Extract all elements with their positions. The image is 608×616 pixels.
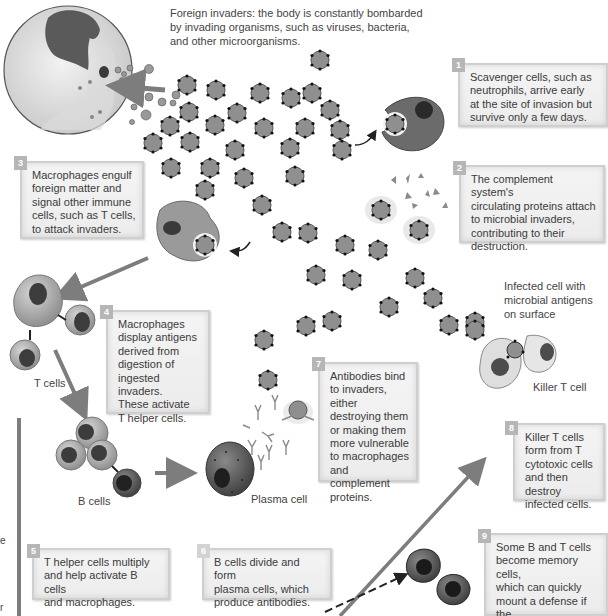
step-5-box: T helper cells multiply and help activat… bbox=[32, 548, 170, 600]
step-7-box: Antibodies bind to invaders, either dest… bbox=[318, 362, 418, 482]
plasma-cell-illustration bbox=[206, 442, 254, 496]
step-2-box: The complement system's circulating prot… bbox=[459, 165, 605, 243]
step-6-badge: 6 bbox=[197, 544, 210, 558]
step-8-badge: 8 bbox=[505, 421, 518, 435]
step-9-box: Some B and T cells become memory cells, … bbox=[484, 533, 608, 616]
step-4-box: Macrophages display antigens derived fro… bbox=[106, 310, 210, 414]
step-1-badge: 1 bbox=[452, 58, 465, 72]
t-cells-label: T cells bbox=[34, 376, 66, 390]
step-3-badge: 3 bbox=[14, 156, 27, 170]
t-cells-illustration bbox=[10, 275, 95, 370]
person-inhaling-illustration bbox=[4, 6, 132, 134]
killer-t-cell-label: Killer T cell bbox=[533, 380, 586, 394]
step-2-badge: 2 bbox=[453, 161, 466, 175]
step-4-badge: 4 bbox=[100, 305, 113, 319]
complement-protein-fragments bbox=[391, 173, 448, 209]
step-3-box: Macrophages engulf foreign matter and si… bbox=[20, 161, 144, 239]
step-7-badge: 7 bbox=[312, 357, 325, 371]
b-cells-label: B cells bbox=[78, 494, 110, 508]
macrophage-illustration bbox=[157, 201, 250, 261]
step-1-box: Scavenger cells, such as neutrophils, ar… bbox=[458, 63, 608, 127]
scavenger-cell-illustration bbox=[355, 97, 444, 150]
plasma-cell-label: Plasma cell bbox=[251, 492, 307, 506]
left-divider-bar bbox=[17, 418, 21, 616]
step-8-box: Killer T cells form from T cytotoxic cel… bbox=[513, 423, 605, 501]
clipped-text-fragment: r bbox=[0, 602, 3, 613]
infected-cell-label: Infected cell with microbial antigens on… bbox=[504, 279, 593, 321]
step-6-box: B cells divide and form plasma cells, wh… bbox=[202, 548, 332, 600]
immune-response-diagram: Foreign invaders: the body is constantly… bbox=[0, 0, 608, 616]
b-cells-illustration bbox=[56, 417, 141, 497]
clipped-text-fragment: e bbox=[0, 535, 6, 546]
step-9-badge: 9 bbox=[478, 529, 491, 543]
step-5-badge: 5 bbox=[27, 544, 40, 558]
foreign-invaders-caption: Foreign invaders: the body is constantly… bbox=[170, 6, 430, 48]
memory-cells-illustration bbox=[406, 549, 470, 605]
